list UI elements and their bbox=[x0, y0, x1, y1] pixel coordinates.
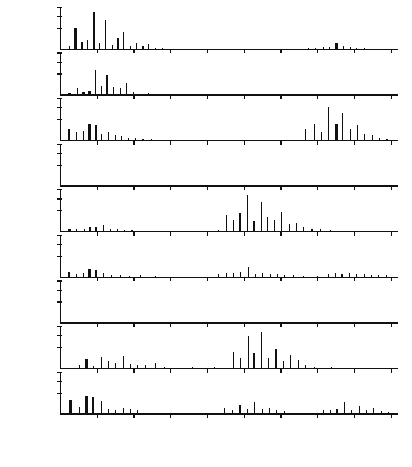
spectrum-peak bbox=[170, 49, 171, 50]
spectrum-panel-hpcdpe bbox=[0, 327, 412, 369]
x-axis-tick bbox=[391, 414, 392, 418]
spectrum-peak bbox=[85, 359, 88, 370]
x-axis-tick bbox=[133, 414, 134, 418]
spectrum-peak bbox=[330, 230, 331, 232]
spectrum-peak bbox=[248, 267, 249, 278]
spectrum-peak bbox=[233, 220, 234, 233]
spectrum-peak bbox=[328, 107, 329, 141]
spectrum-peak bbox=[108, 132, 109, 141]
plot-area bbox=[60, 8, 398, 50]
spectrum-peak bbox=[101, 86, 102, 95]
spectrum-peak bbox=[120, 88, 121, 96]
y-axis-tick bbox=[57, 372, 62, 373]
x-axis-tick bbox=[170, 414, 171, 418]
spectrum-peak bbox=[283, 361, 284, 369]
spectrum-peak bbox=[277, 274, 278, 278]
spectrum-peak bbox=[269, 408, 270, 415]
spectrum-peak bbox=[232, 410, 233, 415]
x-axis-tick bbox=[317, 414, 318, 418]
x-axis-tick bbox=[354, 414, 355, 418]
spectrum-peak bbox=[247, 195, 248, 232]
spectrum-peak bbox=[103, 273, 104, 278]
spectrum-peak bbox=[87, 40, 88, 50]
y-axis-tick bbox=[57, 235, 62, 236]
spectrum-peak bbox=[148, 93, 149, 96]
panel-label-box bbox=[0, 190, 58, 232]
spectrum-peak bbox=[99, 43, 100, 50]
spectrum-peak bbox=[275, 349, 276, 369]
spectrum-peak bbox=[248, 336, 249, 369]
y-axis-tick bbox=[57, 393, 62, 394]
spectrum-peak bbox=[95, 270, 98, 278]
spectrum-peak bbox=[93, 366, 94, 369]
spectrum-peak bbox=[284, 275, 285, 278]
spectrum-peak bbox=[76, 274, 77, 278]
spectrum-peak bbox=[130, 409, 131, 415]
spectrum-peak bbox=[329, 47, 330, 50]
spectrum-peak bbox=[289, 224, 290, 232]
spectrum-peak bbox=[262, 409, 263, 414]
spectrum-peak bbox=[83, 131, 84, 141]
spectrum-peak bbox=[253, 221, 254, 232]
spectrum-peak bbox=[106, 75, 107, 95]
spectrum-peak bbox=[162, 48, 163, 50]
y-axis-line bbox=[60, 327, 61, 369]
spectrum-peak bbox=[226, 273, 227, 278]
spectrum-peak bbox=[83, 273, 84, 278]
x-axis-line bbox=[60, 322, 398, 323]
spectrum-peak bbox=[351, 410, 352, 415]
plot-area bbox=[60, 99, 398, 141]
spectrum-peak bbox=[206, 414, 207, 415]
spectrum-peak bbox=[262, 273, 263, 278]
spectrum-peak bbox=[103, 225, 104, 233]
spectrum-peak bbox=[350, 47, 351, 50]
spectrum-peak bbox=[69, 400, 72, 415]
spectrum-peak bbox=[373, 408, 374, 415]
spectrum-peak bbox=[359, 406, 360, 415]
spectrum-panel-hpcdd bbox=[0, 8, 412, 50]
spectrum-peak bbox=[361, 368, 362, 370]
spectrum-peak bbox=[276, 410, 277, 415]
spectrum-peak bbox=[124, 230, 125, 233]
spectrum-peak bbox=[76, 132, 77, 141]
spectrum-peak bbox=[320, 229, 321, 232]
spectrum-peak bbox=[344, 402, 345, 415]
x-axis-line bbox=[60, 94, 398, 95]
spectrum-peak bbox=[68, 129, 71, 142]
spectrum-peak bbox=[317, 276, 318, 278]
spectrum-peak bbox=[303, 276, 304, 278]
spectrum-peak bbox=[386, 139, 387, 142]
x-axis-tick bbox=[244, 414, 245, 418]
x-axis-tick bbox=[97, 414, 98, 418]
y-axis-tick bbox=[57, 335, 62, 336]
y-axis-tick bbox=[57, 290, 62, 291]
spectrum-panel-hpcdf bbox=[0, 190, 412, 232]
spectrum-peak bbox=[323, 410, 324, 415]
spectrum-peak bbox=[105, 20, 106, 50]
spectrum-peak bbox=[142, 139, 143, 141]
panel-label-box bbox=[0, 8, 58, 50]
spectrum-peak bbox=[115, 410, 116, 415]
spectrum-peak bbox=[85, 396, 88, 414]
spectrum-peak bbox=[240, 272, 241, 278]
x-axis-line bbox=[60, 413, 398, 414]
spectrum-peak bbox=[295, 413, 296, 415]
spectrum-peak bbox=[336, 409, 339, 414]
spectrum-peak bbox=[128, 138, 129, 141]
spectrum-peak bbox=[177, 414, 178, 415]
y-axis-line bbox=[60, 190, 61, 232]
y-axis-tick bbox=[57, 326, 62, 327]
spectrum-peak bbox=[253, 353, 254, 369]
spectrum-peak bbox=[356, 274, 357, 278]
x-axis-line bbox=[60, 368, 398, 369]
y-axis-tick bbox=[57, 256, 62, 257]
y-axis-tick bbox=[57, 52, 62, 53]
y-axis-tick bbox=[57, 244, 62, 245]
spectrum-peak bbox=[131, 230, 132, 232]
spectrum-peak bbox=[240, 358, 241, 369]
y-axis-tick bbox=[57, 280, 62, 281]
spectrum-peak bbox=[155, 231, 156, 233]
spectrum-peak bbox=[130, 364, 131, 369]
spectrum-peak bbox=[255, 274, 256, 278]
spectrum-peak bbox=[130, 46, 131, 50]
